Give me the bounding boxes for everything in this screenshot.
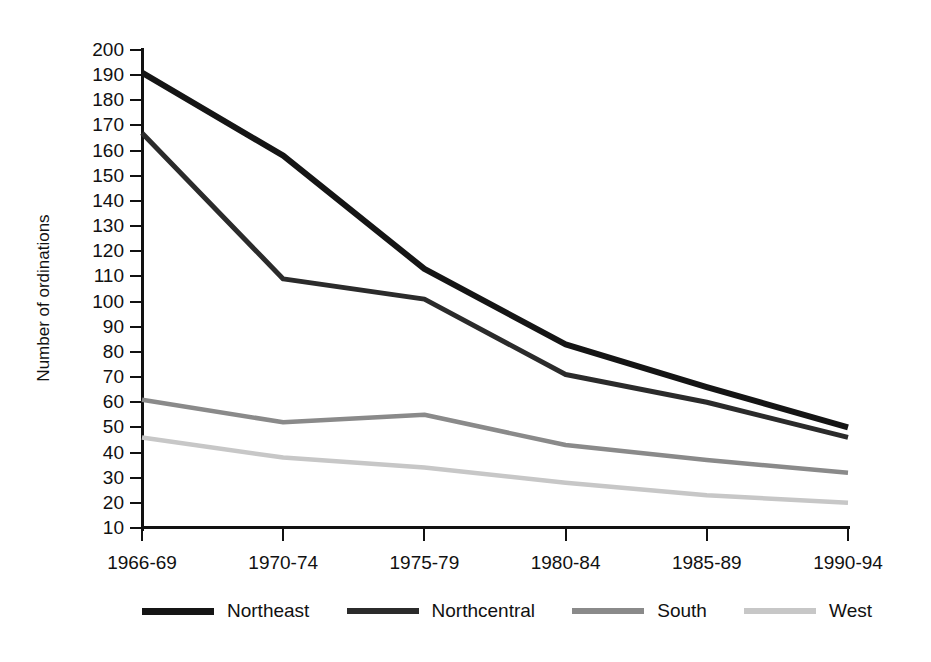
- series-line-west: [142, 437, 848, 502]
- legend-item-south[interactable]: South: [572, 600, 707, 622]
- legend-label: Northcentral: [432, 600, 536, 622]
- chart-legend: NortheastNorthcentralSouthWest: [142, 600, 902, 622]
- legend-label: Northeast: [227, 600, 309, 622]
- line-chart: Number of ordinations 200190180170160150…: [0, 0, 931, 662]
- legend-swatch-icon: [347, 608, 419, 614]
- series-line-northeast: [142, 73, 848, 428]
- legend-item-west[interactable]: West: [744, 600, 872, 622]
- legend-swatch-icon: [744, 608, 816, 614]
- legend-swatch-icon: [142, 608, 214, 615]
- legend-item-northcentral[interactable]: Northcentral: [347, 600, 536, 622]
- legend-swatch-icon: [572, 608, 644, 614]
- legend-label: South: [657, 600, 707, 622]
- legend-item-northeast[interactable]: Northeast: [142, 600, 309, 622]
- series-line-northcentral: [142, 133, 848, 437]
- legend-label: West: [829, 600, 872, 622]
- series-lines: [0, 0, 931, 662]
